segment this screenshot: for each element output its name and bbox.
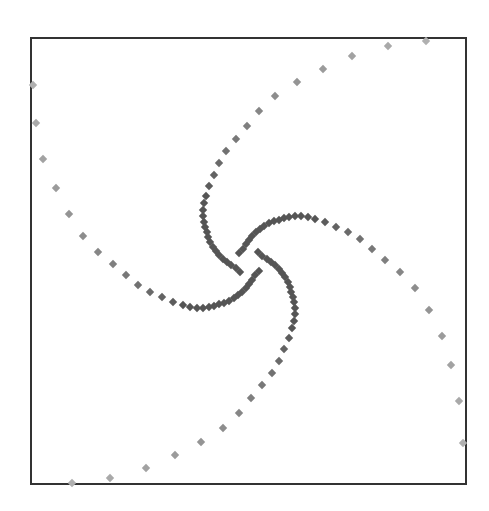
data-point-diamond [291,310,299,318]
data-point-diamond [142,464,150,472]
data-point-diamond [247,394,255,402]
data-point-diamond [293,78,301,86]
data-point-diamond [106,474,114,482]
data-point-diamond [319,65,327,73]
data-point-diamond [425,306,433,314]
data-point-diamond [122,271,130,279]
spiral-scatter-plot [0,0,489,511]
data-point-diamond [169,298,177,306]
data-point-diamond [258,381,266,389]
data-point-diamond [186,303,194,311]
data-point-diamond [321,218,329,226]
data-point-diamond [205,182,213,190]
data-point-diamond [179,301,187,309]
data-point-diamond [381,256,389,264]
data-point-diamond [438,332,446,340]
data-point-diamond [304,213,312,221]
data-point-diamond [32,119,40,127]
data-point-diamond [271,92,279,100]
data-point-diamond [215,159,223,167]
data-point-diamond [455,397,463,405]
data-point-diamond [39,155,47,163]
data-point-diamond [222,147,230,155]
data-point-diamond [332,223,340,231]
data-point-diamond [411,284,419,292]
data-point-diamond [285,334,293,342]
data-point-diamond [94,248,102,256]
data-point-diamond [197,438,205,446]
data-point-diamond [109,260,117,268]
data-point-diamond [68,479,76,487]
data-point-diamond [158,293,166,301]
data-point-diamond [447,361,455,369]
data-point-diamond [255,107,263,115]
data-point-diamond [52,184,60,192]
data-point-diamond [65,210,73,218]
data-point-diamond [235,409,243,417]
data-point-diamond [275,357,283,365]
data-point-diamond [219,424,227,432]
data-point-diamond [243,122,251,130]
data-point-diamond [79,232,87,240]
data-point-diamond [280,345,288,353]
data-point-diamond [202,192,210,200]
data-point-diamond [344,228,352,236]
plot-frame [31,38,466,484]
data-point-diamond [134,281,142,289]
data-point-diamond [384,42,392,50]
data-point-diamond [146,288,154,296]
data-point-diamond [210,171,218,179]
data-point-diamond [356,235,364,243]
data-point-diamond [193,304,201,312]
data-point-diamond [368,245,376,253]
data-point-diamond [268,369,276,377]
data-points [29,37,467,487]
data-point-diamond [311,215,319,223]
data-point-diamond [297,212,305,220]
data-point-diamond [396,268,404,276]
data-point-diamond [200,199,208,207]
data-point-diamond [290,317,298,325]
data-point-diamond [232,135,240,143]
data-point-diamond [171,451,179,459]
data-point-diamond [288,324,296,332]
data-point-diamond [348,52,356,60]
data-point-diamond [199,206,207,214]
